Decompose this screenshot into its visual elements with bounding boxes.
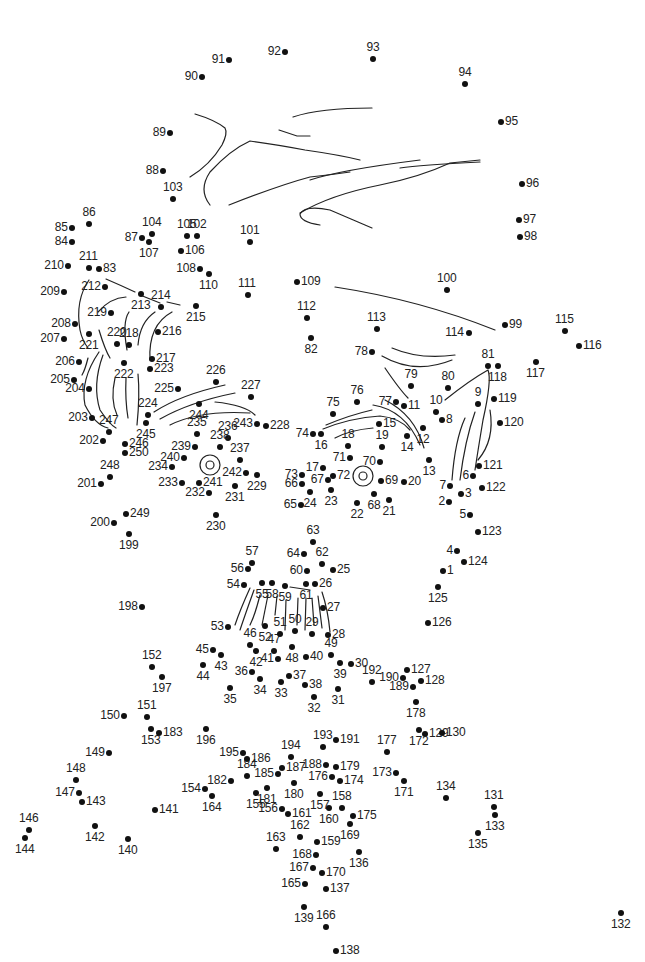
- dot-number-label: 78: [355, 345, 368, 357]
- dot-marker: [439, 417, 445, 423]
- dot-number-label: 177: [377, 734, 396, 746]
- dot-number-label: 37: [293, 669, 306, 681]
- dot-number-label: 222: [114, 368, 133, 380]
- dot-marker: [257, 676, 263, 682]
- dot-marker: [330, 411, 336, 417]
- dot-marker: [302, 881, 308, 887]
- dot-number-label: 82: [304, 343, 317, 355]
- dot-marker: [138, 291, 144, 297]
- dot-number-label: 202: [79, 434, 98, 446]
- dot-marker: [302, 682, 308, 688]
- dot-number-label: 247: [99, 414, 118, 426]
- dot-number-label: 221: [79, 339, 98, 351]
- dot-marker: [241, 582, 247, 588]
- dot-marker: [203, 726, 209, 732]
- dot-marker: [313, 852, 319, 858]
- dot-number-label: 238: [210, 429, 229, 441]
- dot-marker: [378, 478, 384, 484]
- dot-marker: [384, 749, 390, 755]
- dot-number-label: 172: [409, 735, 428, 747]
- dot-marker: [209, 793, 215, 799]
- dot-number-label: 101: [240, 224, 259, 236]
- dot-number-label: 208: [51, 317, 70, 329]
- dot-number-label: 98: [524, 230, 537, 242]
- dot-number-label: 203: [68, 411, 87, 423]
- dot-marker: [404, 433, 410, 439]
- dot-number-label: 175: [357, 809, 376, 821]
- dot-number-label: 84: [55, 235, 68, 247]
- dot-marker: [475, 529, 481, 535]
- dot-marker: [155, 329, 161, 335]
- dot-number-label: 56: [231, 562, 244, 574]
- dot-number-label: 215: [186, 311, 205, 323]
- dot-number-label: 51: [273, 616, 286, 628]
- dot-marker: [335, 686, 341, 692]
- dot-marker: [312, 581, 318, 587]
- dot-number-label: 142: [85, 831, 104, 843]
- dot-marker: [159, 674, 165, 680]
- dot-marker: [445, 385, 451, 391]
- dot-marker: [286, 673, 292, 679]
- dot-marker: [275, 771, 281, 777]
- dot-number-label: 139: [294, 912, 313, 924]
- dot-number-label: 46: [243, 627, 256, 639]
- dot-number-label: 6: [462, 469, 468, 481]
- dot-number-label: 223: [154, 362, 173, 374]
- dot-number-label: 173: [372, 766, 391, 778]
- dot-marker: [178, 248, 184, 254]
- dot-marker: [228, 778, 234, 784]
- dot-number-label: 50: [288, 613, 301, 625]
- dot-marker: [196, 401, 202, 407]
- dot-number-label: 74: [296, 427, 309, 439]
- dot-number-label: 210: [44, 259, 63, 271]
- dot-marker: [102, 284, 108, 290]
- dot-number-label: 81: [481, 348, 494, 360]
- dot-number-label: 110: [199, 279, 218, 291]
- dot-number-label: 71: [333, 451, 346, 463]
- dot-marker: [126, 342, 132, 348]
- dot-number-label: 32: [307, 702, 320, 714]
- dot-marker: [184, 233, 190, 239]
- dot-marker: [301, 904, 307, 910]
- dot-number-label: 24: [303, 497, 316, 509]
- dot-marker: [262, 623, 268, 629]
- dot-marker: [121, 713, 127, 719]
- dot-marker: [354, 500, 360, 506]
- dot-number-label: 140: [118, 844, 137, 856]
- dot-marker: [320, 744, 326, 750]
- dot-marker: [144, 714, 150, 720]
- dot-marker: [107, 474, 113, 480]
- dot-number-label: 57: [245, 545, 258, 557]
- dot-number-label: 148: [66, 762, 85, 774]
- dot-number-label: 159: [321, 835, 340, 847]
- dot-number-label: 68: [367, 499, 380, 511]
- dot-marker: [167, 130, 173, 136]
- dot-number-label: 25: [337, 563, 350, 575]
- dot-marker: [247, 642, 253, 648]
- dot-marker: [122, 441, 128, 447]
- dot-number-label: 99: [509, 318, 522, 330]
- dot-marker: [121, 360, 127, 366]
- dot-marker: [533, 359, 539, 365]
- dot-number-label: 60: [290, 564, 303, 576]
- dot-marker: [377, 459, 383, 465]
- dot-marker: [199, 74, 205, 80]
- dot-marker: [345, 443, 351, 449]
- dot-number-label: 94: [458, 66, 471, 78]
- dot-marker: [76, 359, 82, 365]
- dot-number-label: 87: [125, 231, 138, 243]
- dot-number-label: 8: [446, 413, 452, 425]
- dot-number-label: 196: [196, 734, 215, 746]
- dot-marker: [244, 756, 250, 762]
- dot-marker: [379, 444, 385, 450]
- dot-marker: [122, 450, 128, 456]
- dot-marker: [328, 487, 334, 493]
- dot-marker: [461, 559, 467, 565]
- dot-number-label: 180: [284, 788, 303, 800]
- dot-marker: [374, 326, 380, 332]
- dot-number-label: 86: [82, 206, 95, 218]
- dot-number-label: 3: [465, 487, 471, 499]
- dot-number-label: 118: [488, 371, 507, 383]
- dot-number-label: 70: [363, 455, 376, 467]
- dot-marker: [194, 233, 200, 239]
